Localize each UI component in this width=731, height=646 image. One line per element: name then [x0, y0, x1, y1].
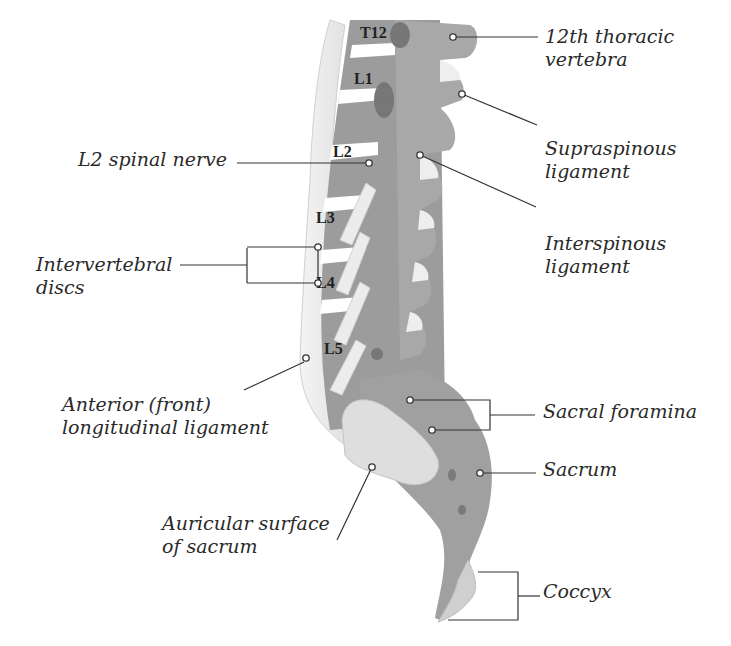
label-sacral-foramina: Sacral foramina [543, 400, 697, 423]
label-intervertebral-discs: Intervertebral discs [36, 253, 172, 299]
label-interspinous-ligament: Interspinous ligament [545, 232, 666, 278]
vertebra-label-t12: T12 [360, 24, 387, 41]
label-supraspinous-ligament: Supraspinous ligament [545, 137, 676, 183]
vertebra-label-l1: L1 [354, 70, 373, 87]
spine-diagram: T12 L1 L2 L3 L4 L5 [0, 0, 731, 646]
label-anterior-longitudinal-ligament: Anterior (front) longitudinal ligament [62, 393, 269, 439]
spine-illustration: T12 L1 L2 L3 L4 L5 [0, 0, 731, 646]
vertebra-label-l5: L5 [324, 340, 343, 357]
label-auricular-surface: Auricular surface of sacrum [162, 512, 330, 558]
vertebra-label-l2: L2 [333, 143, 352, 160]
vertebra-label-l3: L3 [316, 209, 335, 226]
label-sacrum: Sacrum [543, 458, 617, 481]
label-l2-spinal-nerve: L2 spinal nerve [78, 148, 227, 171]
label-12th-thoracic-vertebra: 12th thoracic vertebra [545, 25, 674, 71]
label-coccyx: Coccyx [543, 580, 612, 603]
